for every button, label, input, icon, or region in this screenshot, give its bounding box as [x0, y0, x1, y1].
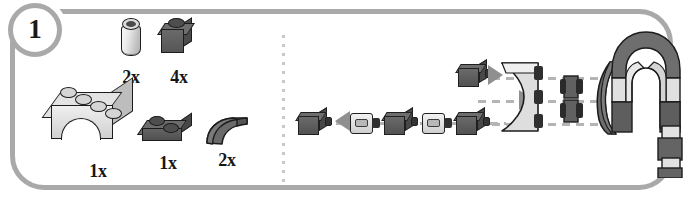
part-quantity: 4x [152, 68, 206, 86]
part-entry-round-brick-1x1: 2x [108, 18, 154, 86]
part-quantity: 2x [199, 151, 255, 169]
assembly-brick-1x1 [456, 108, 492, 138]
finished-assembly [600, 26, 688, 178]
instruction-sheet: 1 2x 4x [0, 0, 688, 204]
round-brick-icon [118, 18, 144, 60]
parts-inventory: 2x 4x 1x [0, 0, 282, 204]
part-entry-slope-curved-1x2: 2x [199, 113, 255, 169]
assembly-diagram [282, 0, 688, 204]
curved-slope-icon [201, 113, 253, 147]
part-quantity: 1x [140, 154, 196, 172]
arch-brick-icon [49, 84, 147, 156]
assembly-brick-1x1 [384, 108, 420, 138]
brick-1x1-icon [160, 18, 198, 60]
assembly-brick-1x1 [298, 108, 334, 138]
assembly-arrow-icon [335, 111, 350, 131]
part-quantity: 1x [48, 162, 148, 180]
assembly-round-brick-1x1 [422, 109, 454, 139]
assembly-round-brick-1x1 [350, 109, 382, 139]
assembly-arch-brick [494, 57, 550, 135]
assembly-brick-stack [560, 74, 584, 126]
part-entry-arch-1x4: 1x [48, 84, 148, 180]
plate-1x2-icon [141, 115, 195, 149]
part-entry-brick-1x1: 4x [152, 18, 206, 86]
part-entry-plate-1x2: 1x [140, 115, 196, 172]
